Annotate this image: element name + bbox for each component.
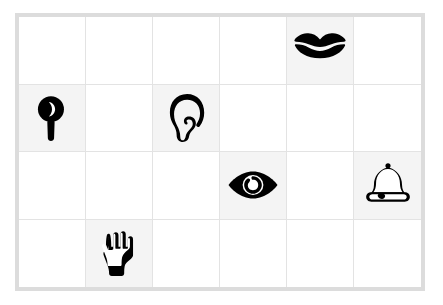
grid-cell-r2c5[interactable] [287,85,354,153]
grid-cell-ear[interactable]: Ear [153,85,220,153]
ear-icon [160,92,212,144]
grid-cell-r4c5[interactable] [287,220,354,288]
grid-cell-r4c3[interactable] [153,220,220,288]
hand-icon [93,227,145,279]
bell-icon [362,159,414,211]
grid-cell-r1c4[interactable] [220,17,287,85]
grid-cell-r1c2[interactable] [86,17,153,85]
grid-cell-r3c5[interactable] [287,152,354,220]
grid-cell-r4c6[interactable] [354,220,421,288]
lips-icon [294,24,346,76]
eye-icon [227,159,279,211]
grid-cell-r1c6[interactable] [354,17,421,85]
grid-cell-r2c4[interactable] [220,85,287,153]
grid-frame: Lips Magnifying glass Ear Eye Bell Hand [15,13,425,291]
grid-cell-lips[interactable]: Lips [287,17,354,85]
grid-cell-eye[interactable]: Eye [220,152,287,220]
grid-cell-r3c2[interactable] [86,152,153,220]
magnifying-glass-icon [26,92,78,144]
grid-cell-r3c3[interactable] [153,152,220,220]
icon-grid: Lips Magnifying glass Ear Eye Bell Hand [19,17,421,287]
grid-cell-hand[interactable]: Hand [86,220,153,288]
grid-cell-r1c1[interactable] [19,17,86,85]
grid-cell-bell[interactable]: Bell [354,152,421,220]
grid-cell-r3c1[interactable] [19,152,86,220]
grid-cell-magnifying-glass[interactable]: Magnifying glass [19,85,86,153]
grid-cell-r2c2[interactable] [86,85,153,153]
grid-cell-r1c3[interactable] [153,17,220,85]
grid-cell-r4c4[interactable] [220,220,287,288]
screenshot-root: Lips Magnifying glass Ear Eye Bell Hand [0,0,443,305]
grid-cell-r2c6[interactable] [354,85,421,153]
grid-cell-r4c1[interactable] [19,220,86,288]
